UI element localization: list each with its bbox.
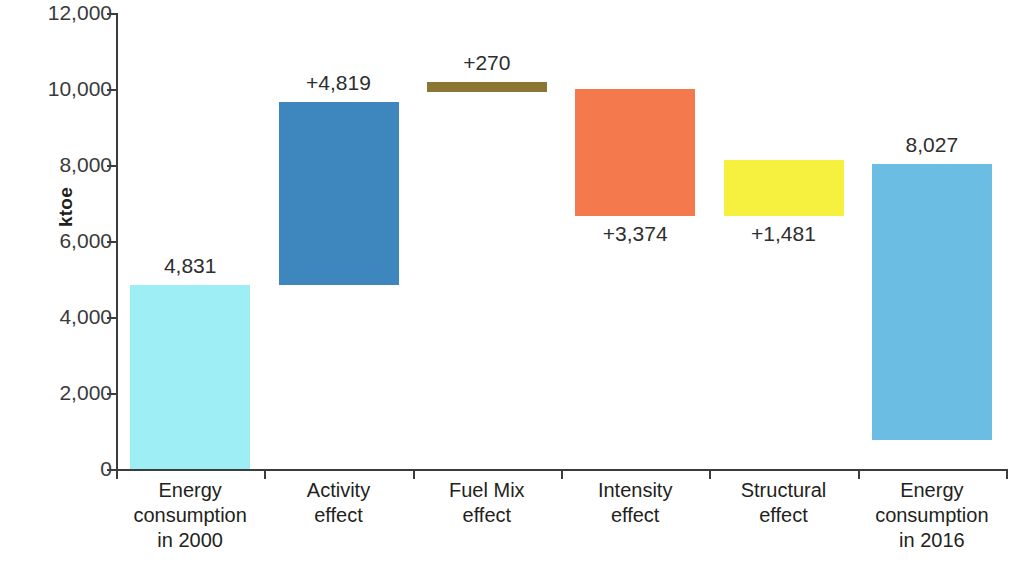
bar-structural-effect (724, 160, 844, 216)
x-category-label-line: Activity (254, 478, 424, 503)
x-category-label-line: effect (402, 503, 572, 528)
y-tick-label: 10,000 (12, 77, 112, 101)
y-tick-mark (107, 393, 117, 395)
y-tick-label: 4,000 (12, 305, 112, 329)
waterfall-chart: ktoe 02,0004,0006,0008,00010,00012,000 4… (0, 0, 1010, 564)
y-tick-mark (107, 13, 117, 15)
y-tick-label: 2,000 (12, 381, 112, 405)
bar-fuel-mix-effect (427, 82, 547, 92)
value-label-fuel-mix-effect: +270 (463, 51, 510, 75)
bar-energy-consumption-2000 (130, 285, 250, 469)
y-tick-mark (107, 317, 117, 319)
x-category-label-line: consumption (847, 503, 1010, 528)
x-category-label-line: in 2016 (847, 528, 1010, 553)
x-category-label-line: effect (550, 503, 720, 528)
x-category-label-line: consumption (105, 503, 275, 528)
x-category-label: Fuel Mixeffect (402, 478, 572, 528)
x-category-label-line: Structural (699, 478, 869, 503)
y-tick-mark (107, 89, 117, 91)
value-label-energy-consumption-2000: 4,831 (164, 254, 217, 278)
bar-energy-consumption-2016 (872, 164, 992, 440)
y-tick-mark (107, 241, 117, 243)
value-label-activity-effect: +4,819 (306, 71, 371, 95)
x-category-label-line: in 2000 (105, 528, 275, 553)
x-category-label-line: effect (699, 503, 869, 528)
y-tick-label: 8,000 (12, 153, 112, 177)
x-category-label: Structuraleffect (699, 478, 869, 528)
x-category-label-line: Energy (847, 478, 1010, 503)
y-tick-label: 0 (12, 457, 112, 481)
y-tick-label: 6,000 (12, 229, 112, 253)
x-category-label-line: effect (254, 503, 424, 528)
x-category-label: Energyconsumptionin 2016 (847, 478, 1010, 553)
x-category-label-line: Energy (105, 478, 275, 503)
value-label-intensity-effect: +3,374 (603, 222, 668, 246)
y-tick-label: 12,000 (12, 1, 112, 25)
y-tick-mark (107, 165, 117, 167)
bar-intensity-effect (575, 89, 695, 216)
plot-area: 4,831+4,819+270+3,374+1,4818,027 (116, 13, 1006, 471)
bar-activity-effect (279, 102, 399, 285)
x-category-label-line: Intensity (550, 478, 720, 503)
value-label-structural-effect: +1,481 (751, 222, 816, 246)
x-category-label: Intensityeffect (550, 478, 720, 528)
y-axis-tick-labels: 02,0004,0006,0008,00010,00012,000 (0, 0, 112, 564)
x-category-label: Activityeffect (254, 478, 424, 528)
x-category-label: Energyconsumptionin 2000 (105, 478, 275, 553)
value-label-energy-consumption-2016: 8,027 (906, 133, 959, 157)
x-category-label-line: Fuel Mix (402, 478, 572, 503)
